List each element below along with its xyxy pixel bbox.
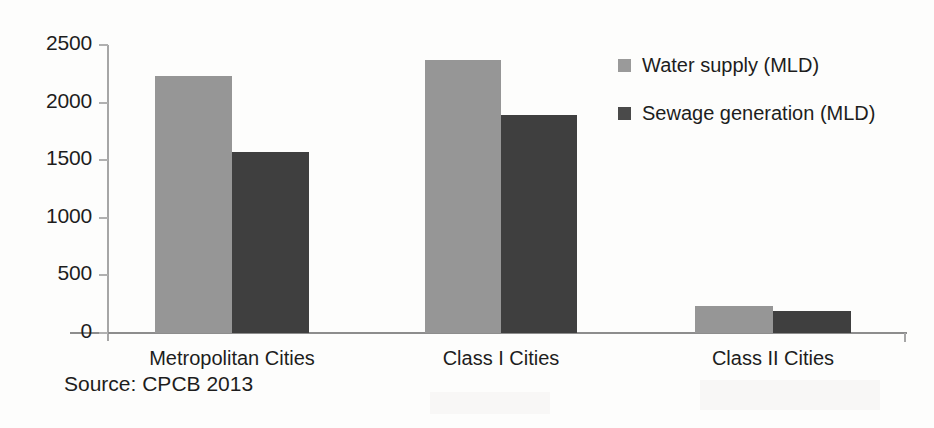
legend-swatch-icon [618, 59, 631, 72]
legend-label: Sewage generation (MLD) [642, 102, 875, 125]
legend-item: Sewage generation (MLD) [618, 96, 875, 130]
chart-page: 05001000150020002500 Metropolitan Cities… [0, 0, 934, 428]
x-axis-label-2: Class I Cities [361, 347, 641, 370]
legend-swatch-icon [618, 107, 631, 120]
legend-label: Water supply (MLD) [642, 54, 819, 77]
bar-sewage-generation [773, 311, 851, 333]
bar-water-supply [695, 306, 773, 333]
x-axis-label-1: Metropolitan Cities [92, 347, 372, 370]
bar-water-supply [155, 76, 232, 333]
chart-legend: Water supply (MLD)Sewage generation (MLD… [618, 48, 875, 144]
bar-water-supply [425, 60, 501, 333]
bar-sewage-generation [501, 115, 577, 333]
bar-sewage-generation [232, 152, 309, 333]
legend-item: Water supply (MLD) [618, 48, 875, 82]
x-axis-label-3: Class II Cities [633, 347, 913, 370]
source-note: Source: CPCB 2013 [64, 372, 253, 396]
